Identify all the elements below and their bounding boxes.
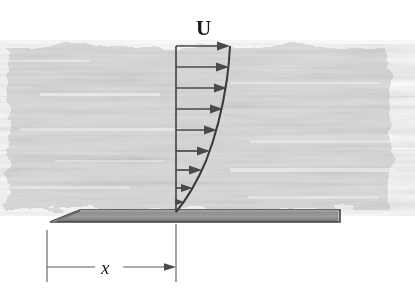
figure-canvas — [0, 0, 415, 291]
boundary-layer-figure: U x — [0, 0, 415, 291]
dimension-x — [47, 224, 176, 282]
freestream-velocity-label: U — [196, 18, 211, 39]
distance-x-label: x — [101, 258, 109, 277]
dim-arrowhead-right — [164, 263, 176, 270]
flat-plate — [50, 210, 340, 222]
